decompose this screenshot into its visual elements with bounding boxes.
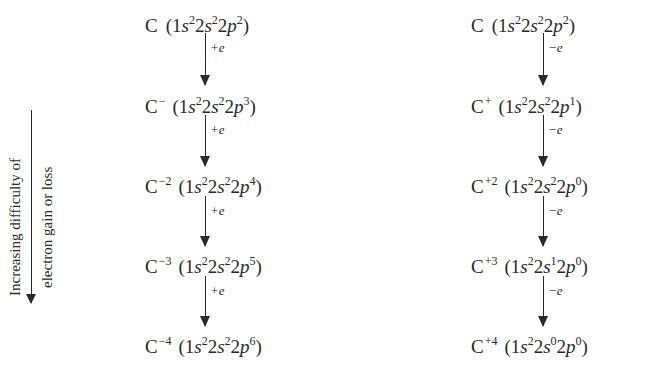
- loss-step-label: −e: [548, 40, 563, 56]
- gain-species-4: C−4(1s22s22p6): [145, 330, 262, 352]
- ion-charge: +: [485, 94, 492, 108]
- loss-species-0: C(1s22s22p2): [471, 9, 575, 31]
- loss-step-label: −e: [548, 122, 563, 138]
- element-symbol: C: [471, 96, 484, 117]
- element-symbol: C: [471, 15, 484, 36]
- electron-configuration: (1s22s02p0): [504, 336, 587, 357]
- ion-charge: −: [159, 94, 166, 108]
- element-symbol: C: [471, 336, 484, 357]
- loss-step-label: −e: [548, 203, 563, 219]
- electron-configuration: (1s22s22p5): [178, 256, 261, 277]
- electron-configuration: (1s22s22p3): [172, 96, 255, 117]
- gain-step-label: +e: [210, 122, 225, 138]
- ion-charge: −4: [159, 334, 172, 348]
- gain-species-0: C(1s22s22p2): [145, 9, 249, 31]
- electron-configuration: (1s22s22p2): [492, 15, 575, 36]
- down-arrow-icon: [205, 33, 206, 85]
- down-arrow-icon: [543, 115, 544, 166]
- ion-charge: +2: [485, 174, 498, 188]
- element-symbol: C: [471, 256, 484, 277]
- element-symbol: C: [145, 96, 158, 117]
- electron-configuration: (1s22s22p4): [178, 176, 261, 197]
- electron-configuration: (1s22s12p0): [504, 256, 587, 277]
- down-arrow-icon: [205, 276, 206, 326]
- down-arrow-icon: [543, 196, 544, 246]
- gain-species-3: C−3(1s22s22p5): [145, 250, 262, 272]
- element-symbol: C: [145, 336, 158, 357]
- electron-configuration: (1s22s22p1): [498, 96, 581, 117]
- ion-charge: +3: [485, 254, 498, 268]
- loss-step-label: −e: [548, 283, 563, 299]
- loss-species-2: C+2(1s22s22p0): [471, 170, 588, 192]
- side-label-line2: electron gain or loss: [39, 167, 56, 288]
- electron-configuration: (1s22s22p0): [504, 176, 587, 197]
- down-arrow-icon: [543, 276, 544, 326]
- side-label-line1: Increasing difficulty of: [7, 158, 24, 296]
- gain-step-label: +e: [210, 203, 225, 219]
- gain-step-label: +e: [210, 40, 225, 56]
- loss-species-3: C+3(1s22s12p0): [471, 250, 588, 272]
- element-symbol: C: [145, 176, 158, 197]
- element-symbol: C: [145, 15, 158, 36]
- ion-charge: +4: [485, 334, 498, 348]
- down-arrow-icon: [543, 33, 544, 85]
- loss-species-4: C+4(1s22s02p0): [471, 330, 588, 352]
- gain-step-label: +e: [210, 283, 225, 299]
- gain-species-2: C−2(1s22s22p4): [145, 170, 262, 192]
- ion-charge: −2: [159, 174, 172, 188]
- electron-configuration: (1s22s22p2): [166, 15, 249, 36]
- gain-species-1: C−(1s22s22p3): [145, 90, 256, 112]
- element-symbol: C: [471, 176, 484, 197]
- element-symbol: C: [145, 256, 158, 277]
- ion-charge: −3: [159, 254, 172, 268]
- difficulty-arrow: [31, 110, 32, 303]
- electron-configuration: (1s22s22p6): [178, 336, 261, 357]
- loss-species-1: C+(1s22s22p1): [471, 90, 582, 112]
- down-arrow-icon: [205, 196, 206, 246]
- down-arrow-icon: [205, 115, 206, 166]
